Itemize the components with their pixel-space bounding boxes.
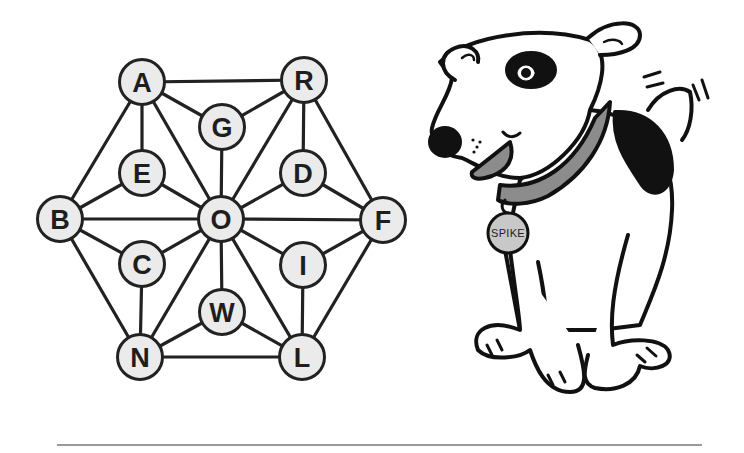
tag-text: SPIKE	[491, 227, 525, 239]
motion-line-icon	[644, 72, 660, 77]
divider-line	[57, 444, 702, 446]
name-tag: SPIKE	[488, 213, 528, 253]
dog-illustration: SPIKE	[0, 0, 744, 453]
motion-line-icon	[693, 85, 699, 100]
motion-line-icon	[702, 80, 708, 98]
nose	[430, 128, 460, 156]
motion-line-icon	[647, 83, 663, 87]
